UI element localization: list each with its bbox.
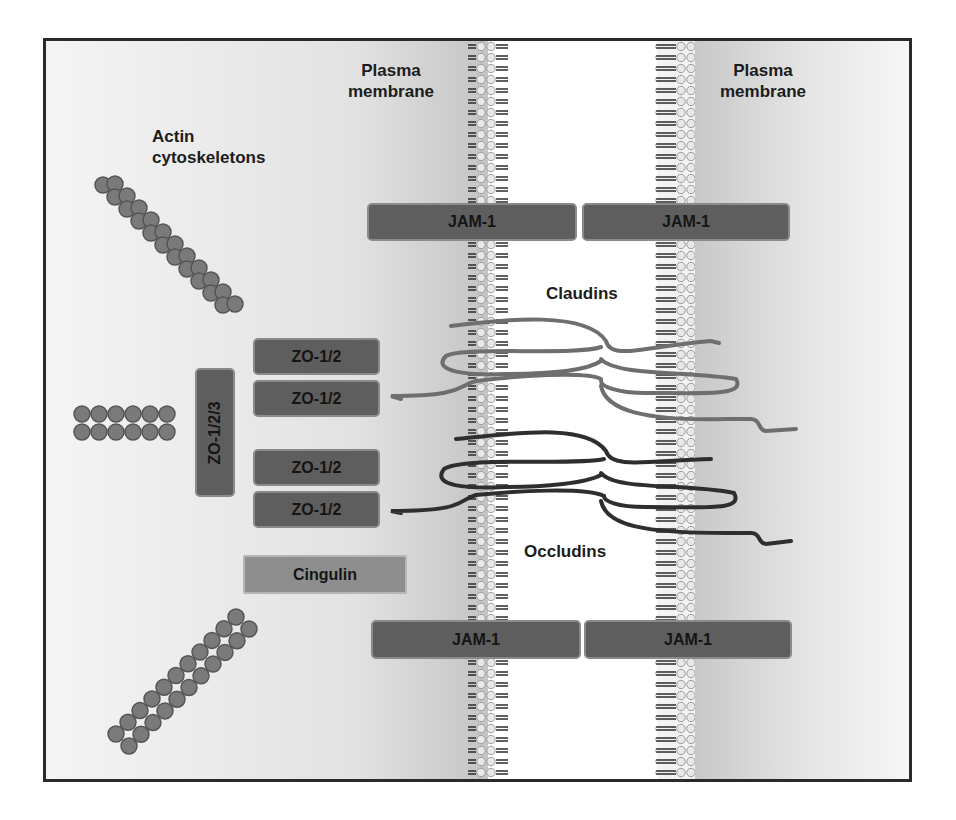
plasma-membrane-left-label: Plasma membrane (336, 60, 446, 102)
pm-right-line1: Plasma (708, 60, 818, 81)
jam1-bottom-right: JAM-1 (584, 620, 792, 659)
zo12-box-2: ZO-1/2 (253, 380, 380, 417)
actin-label-line1: Actin (152, 126, 265, 147)
zo123-label: ZO-1/2/3 (206, 401, 224, 464)
zo123-box: ZO-1/2/3 (195, 368, 235, 497)
claudins-label: Claudins (546, 283, 618, 304)
zo12-box-3: ZO-1/2 (253, 449, 380, 486)
plasma-membrane-right (655, 41, 695, 779)
diagram-frame: Actin cytoskeletons Plasma membrane Plas… (43, 38, 912, 782)
pm-right-line2: membrane (708, 81, 818, 102)
actin-label-line2: cytoskeletons (152, 147, 265, 168)
jam1-bottom-left: JAM-1 (371, 620, 581, 659)
plasma-membrane-right-label: Plasma membrane (708, 60, 818, 102)
plasma-membrane-left (468, 41, 508, 779)
zo12-box-1: ZO-1/2 (253, 338, 380, 375)
zo12-box-4: ZO-1/2 (253, 491, 380, 528)
cingulin-box: Cingulin (243, 555, 407, 594)
pm-left-line2: membrane (336, 81, 446, 102)
actin-label: Actin cytoskeletons (152, 126, 265, 168)
occludins-label: Occludins (524, 541, 606, 562)
jam1-top-right: JAM-1 (582, 203, 790, 241)
pm-left-line1: Plasma (336, 60, 446, 81)
jam1-top-left: JAM-1 (367, 203, 577, 241)
